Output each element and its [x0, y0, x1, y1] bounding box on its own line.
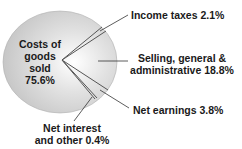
label-net-interest: Net interest and other 0.4%: [26, 122, 118, 146]
label-sga: Selling, general & administrative 18.8%: [126, 52, 238, 76]
label-net-earnings: Net earnings 3.8%: [133, 104, 223, 116]
label-income-taxes: Income taxes 2.1%: [131, 9, 224, 21]
label-cogs: Costs of goods sold 75.6%: [10, 38, 70, 86]
